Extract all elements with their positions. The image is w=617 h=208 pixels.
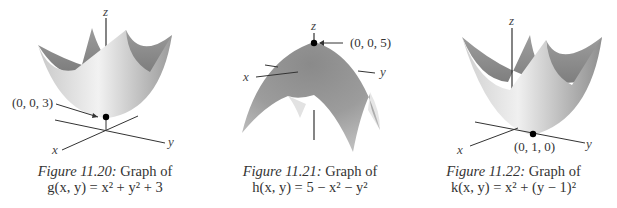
figure-number: Figure 11.21: (243, 163, 322, 179)
surface (242, 42, 380, 152)
z-axis-label: z (508, 13, 514, 28)
caption-text: Graph of (525, 163, 581, 179)
formula: g(x, y) = x² + y² + 3 (0, 179, 210, 195)
caption-text: Graph of (117, 163, 173, 179)
figure-caption: Figure 11.20: Graph of g(x, y) = x² + y²… (0, 163, 210, 195)
paraboloid-up-plot: z x y (0, 0, 3) (0, 0, 210, 165)
y-axis-label: y (584, 136, 592, 151)
figure-11-22: z x y (0, 1, 0) Figure 11.22: Graph of k… (410, 0, 617, 208)
paraboloid-down-plot: z x y (0, 0, 5) (210, 0, 410, 165)
formula: h(x, y) = 5 − x² − y² (210, 179, 410, 195)
paraboloid-shifted-plot: z x y (0, 1, 0) (410, 0, 617, 165)
figure-11-20: z x y (0, 0, 3) Figure 11.20: Graph of g… (0, 0, 210, 208)
caption-text: Graph of (322, 163, 378, 179)
vertex-point (311, 40, 317, 46)
z-axis-label: z (310, 18, 316, 33)
vertex-point (103, 114, 109, 120)
y-axis-label: y (166, 134, 174, 149)
formula: k(x, y) = x² + (y − 1)² (410, 179, 617, 195)
y-axis (55, 120, 165, 143)
x-axis-label: x (456, 142, 463, 157)
figure-number: Figure 11.22: (446, 163, 525, 179)
z-axis-label: z (102, 4, 108, 19)
surface-underside (288, 96, 306, 118)
x-axis-label: x (242, 69, 249, 84)
y-axis (358, 71, 375, 73)
x-axis-label: x (51, 142, 58, 157)
figure-caption: Figure 11.22: Graph of k(x, y) = x² + (y… (410, 163, 617, 195)
vertex-point (530, 131, 536, 137)
figure-11-21: z x y (0, 0, 5) Figure 11.21: Graph of h… (210, 0, 410, 208)
x-axis (62, 116, 138, 150)
figure-number: Figure 11.20: (38, 163, 117, 179)
y-axis-label: y (378, 64, 386, 79)
point-label: (0, 0, 3) (12, 95, 53, 110)
x-axis (470, 128, 518, 146)
point-label: (0, 0, 5) (350, 35, 391, 50)
point-label: (0, 1, 0) (514, 139, 555, 154)
figure-caption: Figure 11.21: Graph of h(x, y) = 5 − x² … (210, 163, 410, 195)
